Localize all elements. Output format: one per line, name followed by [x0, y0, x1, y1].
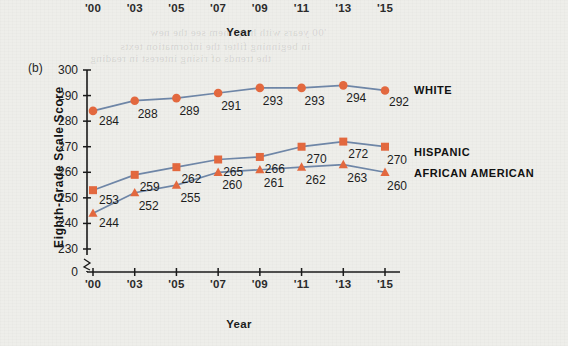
y-axis-break-symbol — [84, 259, 90, 270]
marker-hispanic — [131, 171, 139, 179]
data-label-african-american: 244 — [99, 216, 119, 230]
marker-hispanic — [214, 156, 222, 164]
data-label-hispanic: 259 — [140, 180, 160, 194]
marker-hispanic — [172, 163, 180, 171]
marker-white — [381, 86, 390, 95]
marker-white — [130, 96, 139, 105]
data-label-hispanic: 253 — [99, 193, 119, 207]
series-legend-label-hispanic: HISPANIC — [414, 146, 470, 158]
series-legend-label-white: WHITE — [414, 84, 452, 96]
data-label-african-american: 260 — [222, 178, 242, 192]
data-label-white: 288 — [138, 107, 158, 121]
data-label-white: 284 — [99, 114, 119, 128]
data-label-african-american: 261 — [264, 176, 284, 190]
series-legend-label-african-american: AFRICAN AMERICAN — [414, 167, 534, 179]
data-label-hispanic: 266 — [265, 162, 285, 176]
data-label-hispanic: 270 — [307, 152, 327, 166]
marker-hispanic — [381, 143, 389, 151]
marker-hispanic — [256, 153, 264, 161]
marker-white — [256, 84, 265, 93]
data-label-african-american: 255 — [180, 191, 200, 205]
data-label-white: 294 — [346, 91, 366, 105]
data-label-hispanic: 272 — [348, 147, 368, 161]
data-label-white: 293 — [263, 94, 283, 108]
x-tick-label: '09 — [252, 278, 268, 290]
marker-hispanic — [298, 143, 306, 151]
x-tick-label: '05 — [168, 278, 184, 290]
marker-white — [214, 89, 223, 98]
x-tick-label: '00 — [85, 278, 101, 290]
marker-white — [172, 94, 181, 103]
marker-hispanic — [339, 138, 347, 146]
chart-panel-b: (b) Eighth-Grade Scale Score 30029028027… — [0, 0, 568, 346]
x-tick-label: '11 — [294, 278, 310, 290]
data-label-african-american: 263 — [347, 171, 367, 185]
data-label-hispanic: 265 — [223, 165, 243, 179]
data-label-white: 289 — [179, 104, 199, 118]
marker-white — [297, 84, 306, 93]
x-tick-label: '03 — [127, 278, 143, 290]
marker-white — [89, 107, 98, 116]
data-label-white: 292 — [389, 95, 409, 109]
x-tick-label: '15 — [377, 278, 393, 290]
data-label-african-american: 260 — [387, 179, 407, 193]
data-label-white: 293 — [305, 94, 325, 108]
data-label-white: 291 — [221, 99, 241, 113]
marker-white — [339, 81, 348, 90]
marker-african-american — [88, 208, 97, 216]
data-label-hispanic: 262 — [181, 172, 201, 186]
data-label-hispanic: 270 — [387, 153, 407, 167]
marker-hispanic — [89, 186, 97, 194]
data-label-african-american: 252 — [139, 199, 159, 213]
data-label-african-american: 262 — [306, 173, 326, 187]
x-tick-label: '07 — [210, 278, 226, 290]
x-tick-label: '13 — [335, 278, 351, 290]
